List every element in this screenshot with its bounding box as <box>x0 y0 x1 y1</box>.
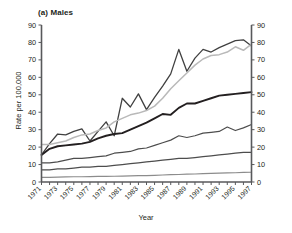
x-tick-label: 1977 <box>75 185 91 201</box>
chart-figure: (a) Males Rate per 100,000 Year 01020304… <box>0 0 292 233</box>
x-tick-label: 1979 <box>91 185 107 201</box>
y-tick-label-left: 20 <box>28 143 36 152</box>
y-tick-label-right: 40 <box>257 108 265 117</box>
series-layer <box>42 40 252 177</box>
plot-area: 0102030405060708090010203040506070809019… <box>0 0 292 233</box>
series-line-mid-lower-age-group <box>42 124 252 162</box>
series-line-lower-age-group <box>42 152 252 169</box>
y-tick-label-left: 50 <box>28 90 36 99</box>
y-tick-label-right: 90 <box>257 21 265 30</box>
x-tick-label: 1975 <box>59 185 75 201</box>
y-tick-label-left: 40 <box>28 108 36 117</box>
x-tick-label: 1993 <box>204 185 220 201</box>
y-tick-label-left: 90 <box>28 21 36 30</box>
y-tick-label-right: 10 <box>257 160 265 169</box>
y-tick-label-left: 80 <box>28 38 36 47</box>
x-tick-label: 1981 <box>107 185 123 201</box>
x-tick-label: 1971 <box>26 185 42 201</box>
x-tick-label: 1991 <box>188 185 204 201</box>
series-line-youngest-age-group <box>42 172 252 177</box>
y-tick-label-left: 60 <box>28 73 36 82</box>
y-tick-label-left: 70 <box>28 55 36 64</box>
y-tick-label-right: 80 <box>257 38 265 47</box>
y-tick-label-left: 30 <box>28 125 36 134</box>
x-tick-label: 1973 <box>42 185 58 201</box>
series-line-second-oldest-age-group-smooth <box>42 44 252 144</box>
y-tick-label-right: 30 <box>257 125 265 134</box>
y-tick-label-left: 10 <box>28 160 36 169</box>
y-tick-label-right: 0 <box>257 178 261 187</box>
y-tick-label-right: 70 <box>257 55 265 64</box>
y-tick-label-right: 60 <box>257 73 265 82</box>
x-tick-label: 1995 <box>220 185 236 201</box>
x-tick-label: 1983 <box>123 185 139 201</box>
x-tick-label: 1985 <box>139 185 155 201</box>
y-tick-label-right: 50 <box>257 90 265 99</box>
y-tick-label-right: 20 <box>257 143 265 152</box>
series-line-middle-age-group-bold <box>42 92 252 155</box>
x-tick-label: 1997 <box>236 185 252 201</box>
x-tick-label: 1989 <box>172 185 188 201</box>
x-tick-label: 1987 <box>155 185 171 201</box>
